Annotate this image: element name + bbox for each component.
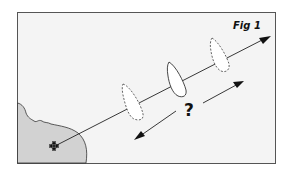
figure-label: Fig 1 [233,20,261,31]
diagram-figure: ? Fig 1 [0,0,292,171]
question-mark: ? [184,100,194,120]
